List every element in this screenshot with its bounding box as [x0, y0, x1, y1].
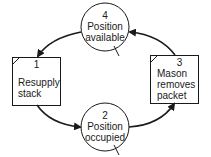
edge-1-to-2-arrow	[37, 105, 80, 127]
node-4-text-line1: Position	[81, 21, 129, 32]
node-3-number: 3	[150, 57, 199, 68]
node-2-text-line1: Position	[81, 121, 129, 132]
node-4-text-line2: available	[81, 32, 129, 43]
node-3-text-line1: Mason	[150, 68, 199, 79]
node-2-number: 2	[81, 110, 129, 121]
edge-2-to-3-arrow	[129, 104, 174, 127]
node-1-label: 1 Resupply stack	[12, 59, 61, 99]
node-3-label: 3 Mason removes packet	[150, 57, 199, 101]
node-1-text-line2: stack	[12, 88, 61, 99]
node-3-text-line2: removes	[150, 79, 199, 90]
node-2-text-line2: occupied	[81, 132, 129, 143]
node-2-label: 2 Position occupied	[81, 110, 129, 143]
edge-3-to-4-arrow	[130, 32, 175, 55]
node-4-number: 4	[81, 10, 129, 21]
edge-4-to-1-arrow	[38, 32, 81, 56]
node-3-text-line3: packet	[150, 90, 199, 101]
node-4-label: 4 Position available	[81, 10, 129, 43]
node-1-number: 1	[12, 59, 61, 70]
node-1-text-line1: Resupply	[12, 77, 61, 88]
